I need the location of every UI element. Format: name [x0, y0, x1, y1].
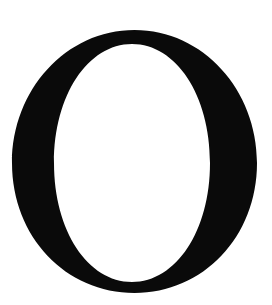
letter-o-glyph [0, 0, 272, 305]
